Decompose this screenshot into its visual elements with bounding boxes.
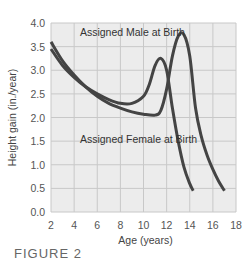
x-tick-label: 4: [71, 219, 77, 231]
y-tick-label: 2.0: [30, 112, 45, 124]
x-axis-label: Age (years): [118, 234, 172, 246]
y-tick-label: 1.5: [30, 135, 45, 147]
figure-caption: FIGURE 2: [14, 246, 82, 259]
x-tick-label: 8: [117, 219, 123, 231]
x-axis-ticks: 24681012141618: [48, 219, 242, 231]
x-tick-label: 12: [161, 219, 173, 231]
y-tick-label: 3.0: [30, 64, 45, 76]
annotation-label: Assigned Female at Birth: [80, 133, 197, 145]
y-tick-label: 0.0: [30, 206, 45, 218]
x-tick-label: 2: [48, 219, 54, 231]
x-tick-label: 10: [138, 219, 150, 231]
x-tick-label: 14: [184, 219, 196, 231]
x-tick-label: 18: [230, 219, 242, 231]
y-tick-label: 2.5: [30, 88, 45, 100]
x-tick-label: 6: [94, 219, 100, 231]
y-axis-label: Height gain (in./year): [6, 69, 18, 166]
y-tick-label: 1.0: [30, 159, 45, 171]
y-axis-ticks: 0.00.51.01.52.02.53.03.54.0: [30, 17, 45, 218]
y-tick-label: 4.0: [30, 17, 45, 29]
y-tick-label: 0.5: [30, 182, 45, 194]
annotation-label: Assigned Male at Birth: [80, 26, 185, 38]
x-tick-label: 16: [207, 219, 219, 231]
y-tick-label: 3.5: [30, 41, 45, 53]
height-gain-chart: 0.00.51.01.52.02.53.03.54.0 246810121416…: [0, 0, 251, 259]
